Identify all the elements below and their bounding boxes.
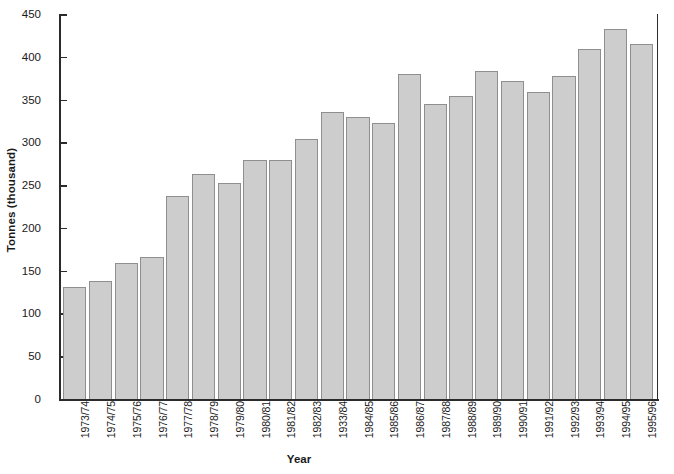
x-axis-tick-label: 1991/92 <box>543 401 555 438</box>
bar <box>398 74 421 399</box>
y-axis-tick-label: 250 <box>1 179 41 191</box>
bars-layer <box>59 14 659 399</box>
x-axis-tick-label: 1994/95 <box>620 401 632 438</box>
bar <box>630 44 653 399</box>
x-axis-tick-label: 1990/91 <box>517 401 529 438</box>
bar <box>63 287 86 399</box>
x-axis-tick-label: 1976/77 <box>157 401 169 438</box>
bar <box>372 123 395 399</box>
y-axis-tick-label: 350 <box>1 94 41 106</box>
bar <box>604 29 627 399</box>
bar <box>192 174 215 399</box>
y-axis-tick-label: 100 <box>1 307 41 319</box>
bar <box>501 81 524 399</box>
x-axis-tick-label: 1974/75 <box>105 401 117 438</box>
x-axis-tick-label: 1995/96 <box>646 401 658 438</box>
bar <box>140 257 163 399</box>
x-axis-tick-label: 1982/83 <box>311 401 323 438</box>
bar <box>269 160 292 399</box>
x-axis-tick-label: 1975/76 <box>131 401 143 438</box>
plot-area: 050100150200250300350400450 <box>59 14 659 399</box>
x-axis-tick-label: 1992/93 <box>569 401 581 438</box>
x-axis-tick-label: 1988/89 <box>466 401 478 438</box>
x-axis-tick-label: 1993/94 <box>594 401 606 438</box>
x-axis-tick-label: 1977/78 <box>182 401 194 438</box>
bar <box>321 112 344 399</box>
y-axis-tick-label: 0 <box>1 393 41 405</box>
bar <box>89 281 112 399</box>
y-axis-tick-label: 300 <box>1 136 41 148</box>
x-axis-tick-label: 1985/86 <box>388 401 400 438</box>
bar <box>424 104 447 399</box>
y-axis-tick-label: 450 <box>1 8 41 20</box>
x-axis-tick-label: 1973/74 <box>79 401 91 438</box>
bar <box>295 139 318 399</box>
y-axis-tick-label: 400 <box>1 51 41 63</box>
bar <box>449 96 472 399</box>
x-axis-tick-label: 1933/84 <box>337 401 349 438</box>
y-axis-tick-label: 50 <box>1 350 41 362</box>
x-axis-tick-label: 1980/81 <box>260 401 272 438</box>
x-axis-tick-label: 1989/90 <box>491 401 503 438</box>
x-axis-tick-labels: 1973/741974/751975/761976/771977/781978/… <box>59 401 659 451</box>
x-axis-tick-label: 1981/82 <box>285 401 297 438</box>
y-axis-tick-label: 200 <box>1 222 41 234</box>
x-axis-tick-label: 1987/88 <box>440 401 452 438</box>
x-axis-tick-label: 1984/85 <box>363 401 375 438</box>
bar <box>552 76 575 399</box>
y-axis-title-text: Tonnes (thousand) <box>5 148 17 252</box>
x-axis-title: Year <box>59 453 539 465</box>
bar <box>218 183 241 399</box>
x-axis-tick-label: 1979/80 <box>234 401 246 438</box>
y-axis-tick-label: 150 <box>1 265 41 277</box>
bar <box>475 71 498 399</box>
bar-chart-figure: Tonnes (thousand) 0501001502002503003504… <box>0 0 674 474</box>
bar <box>578 49 601 399</box>
bar <box>527 92 550 399</box>
x-axis-tick-label: 1986/87 <box>414 401 426 438</box>
bar <box>166 196 189 399</box>
bar <box>346 117 369 399</box>
bar <box>115 263 138 399</box>
bar <box>243 160 266 399</box>
x-axis-tick-label: 1978/79 <box>208 401 220 438</box>
